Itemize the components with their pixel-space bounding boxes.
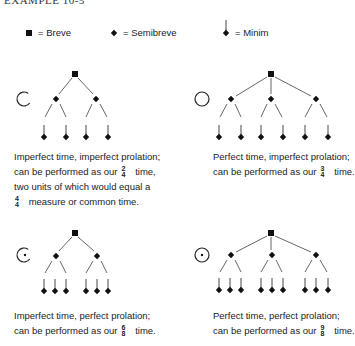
semibreve-icon	[93, 96, 99, 102]
legend-semibreve-label: = Semibreve	[123, 27, 177, 38]
caption-line: Perfect time, perfect prolation;	[213, 308, 355, 323]
caption-line: can be performed as our68 time.	[14, 323, 156, 338]
caption-line: Imperfect time, perfect prolation;	[14, 308, 156, 323]
breve-icon	[72, 71, 78, 77]
caption-text: time.	[135, 325, 156, 336]
caption-line: can be performed as our24 time,	[14, 164, 160, 179]
time-signature: 34	[320, 166, 329, 178]
caption-perfect-perfect: Perfect time, perfect prolation; can be …	[213, 308, 355, 338]
caption-text: time.	[334, 325, 355, 336]
legend-semibreve-icon	[111, 30, 117, 36]
mensuration-c-icon	[14, 89, 33, 108]
ts-denominator: 4	[321, 171, 325, 178]
caption-text: measure or common time.	[29, 196, 139, 207]
semibreve-icon	[53, 96, 59, 102]
panel-perfect-imperfect-tree	[195, 77, 327, 117]
caption-line: can be performed as our98 time.	[213, 323, 355, 338]
caption-line: can be performed as our34 time.	[213, 164, 355, 179]
caption-text: can be performed as our	[213, 325, 317, 336]
caption-line: two units of which would equal a	[14, 179, 160, 194]
legend-minim-label: = Minim	[235, 27, 269, 38]
caption-text: can be performed as our	[213, 166, 317, 177]
ts-denominator: 8	[321, 330, 325, 337]
legend-breve-icon	[26, 30, 32, 36]
panel-imperfect-imperfect-tree	[14, 78, 107, 117]
mensuration-o-icon	[195, 92, 209, 106]
ts-denominator: 4	[15, 201, 19, 208]
caption-perfect-imperfect: Perfect time, imperfect prolation; can b…	[213, 149, 355, 179]
caption-text: time,	[135, 166, 156, 177]
caption-line: 44 measure or common time.	[14, 194, 160, 209]
caption-imperfect-perfect: Imperfect time, perfect prolation; can b…	[14, 308, 156, 338]
ts-denominator: 8	[122, 330, 126, 337]
legend-breve-label: = Breve	[38, 27, 71, 38]
caption-text: time.	[334, 166, 355, 177]
caption-line: Imperfect time, imperfect prolation;	[14, 149, 160, 164]
panel-perfect-perfect-tree	[195, 236, 327, 272]
time-signature: 98	[320, 325, 329, 337]
time-signature: 24	[121, 166, 130, 178]
caption-text: can be performed as our	[14, 325, 118, 336]
time-signature: 68	[121, 325, 130, 337]
ts-denominator: 4	[122, 171, 126, 178]
panel-imperfect-perfect-tree	[14, 237, 107, 273]
legend-minim-icon	[223, 20, 229, 36]
time-signature: 44	[14, 196, 23, 208]
caption-line: Perfect time, imperfect prolation;	[213, 149, 355, 164]
caption-imperfect-imperfect: Imperfect time, imperfect prolation; can…	[14, 149, 160, 209]
caption-text: can be performed as our	[14, 166, 118, 177]
